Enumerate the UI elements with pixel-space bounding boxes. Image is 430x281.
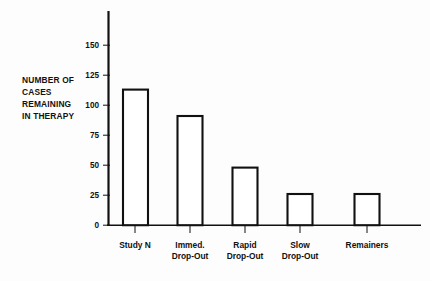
x-tick-label-4-line-1: Remainers (346, 240, 389, 250)
y-axis-title: NUMBER OF CASES REMAINING IN THERAPY (22, 75, 74, 121)
y-tick-label-100: 100 (85, 101, 99, 110)
y-axis-tick-labels: 0 25 50 75 100 125 150 (85, 41, 99, 230)
bar-remainers[interactable] (355, 194, 380, 225)
bar-study-n[interactable] (123, 90, 148, 226)
x-tick-label-3-line-1: Slow (290, 240, 310, 250)
y-axis-title-line-1: NUMBER OF (22, 75, 74, 85)
x-tick-label-1-line-2: Drop-Out (172, 251, 209, 261)
y-tick-label-150: 150 (85, 41, 99, 50)
chart-canvas: NUMBER OF CASES REMAINING IN THERAPY 0 2… (0, 0, 430, 281)
bar-rapid-drop-out[interactable] (233, 168, 258, 226)
y-axis-title-line-2: CASES (22, 87, 52, 97)
y-tick-label-125: 125 (85, 71, 99, 80)
y-axis-title-line-3: REMAINING (22, 99, 71, 109)
x-axis-ticks (135, 226, 367, 233)
bar-slow-drop-out[interactable] (288, 194, 313, 225)
x-tick-label-3-line-2: Drop-Out (282, 251, 319, 261)
x-tick-label-1-line-1: Immed. (175, 240, 204, 250)
x-axis-tick-labels: Study N Immed. Drop-Out Rapid Drop-Out S… (119, 240, 389, 261)
y-tick-label-50: 50 (90, 161, 100, 170)
x-tick-label-2-line-2: Drop-Out (227, 251, 264, 261)
y-tick-label-0: 0 (94, 221, 99, 230)
y-tick-label-25: 25 (90, 191, 100, 200)
x-tick-label-0-line-1: Study N (119, 240, 151, 250)
y-axis-title-line-4: IN THERAPY (22, 111, 74, 121)
bar-immed-drop-out[interactable] (178, 116, 203, 225)
bars-group (123, 90, 380, 226)
x-tick-label-2-line-1: Rapid (233, 240, 256, 250)
bar-chart-figure: NUMBER OF CASES REMAINING IN THERAPY 0 2… (0, 0, 430, 281)
y-tick-label-75: 75 (90, 131, 100, 140)
